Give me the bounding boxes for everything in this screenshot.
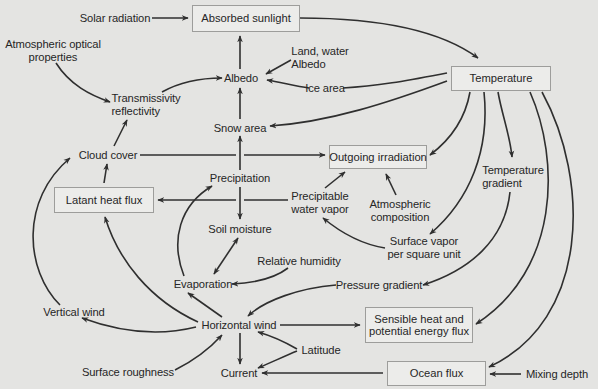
node-atmospheric-optical-properties: Atmospheric optical properties — [5, 38, 101, 63]
node-evaporation: Evaporation — [174, 278, 233, 291]
arrow-hwind-to-evap — [188, 293, 222, 317]
node-precipitable-water-vapor: Precipitable water vapor — [291, 190, 348, 215]
arrow-temperature-to-surfacevapor — [430, 92, 485, 234]
arrow-transmissivity-to-albedo — [162, 78, 222, 92]
evaporation-label: Evaporation — [174, 278, 233, 291]
node-surface-roughness: Surface roughness — [82, 366, 174, 379]
soil-moisture-label: Soil moisture — [208, 223, 271, 236]
node-relative-humidity: Relative humidity — [257, 255, 341, 268]
node-current: Current — [221, 367, 258, 380]
horizontal-wind-label: Horizontal wind — [202, 319, 277, 332]
arrow-latent-to-cloud — [104, 164, 107, 183]
arrow-optical-to-transmissivity — [56, 63, 110, 102]
latitude-label: Latitude — [301, 344, 340, 357]
node-mixing-depth: Mixing depth — [526, 368, 588, 381]
arrow-hwind-to-vwind — [82, 318, 196, 332]
node-snow-area: Snow area — [214, 122, 267, 135]
temperature-gradient-line1: Temperature — [482, 164, 544, 177]
node-surface-vapor: Surface vapor per square unit — [387, 235, 460, 260]
current-label: Current — [221, 367, 258, 380]
surface-vapor-line1: Surface vapor — [387, 235, 460, 248]
node-outgoing-irradiation: Outgoing irradiation — [329, 145, 427, 169]
node-cloud-cover: Cloud cover — [79, 149, 138, 162]
arrow-composition-to-outgoing — [386, 174, 396, 195]
node-solar-radiation: Solar radiation — [80, 12, 151, 25]
node-soil-moisture: Soil moisture — [208, 223, 271, 236]
ice-area-label: Ice area — [305, 82, 345, 95]
atmospheric-composition-line1: Atmospheric — [369, 198, 430, 211]
transmissivity-line2: reflectivity — [111, 104, 180, 117]
arrow-landwater-to-albedo — [266, 60, 291, 74]
arrow-temperature-to-ocean — [489, 92, 573, 367]
land-water-line1: Land, water — [291, 45, 348, 58]
node-sensible-heat-flux: Sensible heat and potential energy flux — [365, 307, 473, 343]
albedo-label: Albedo — [224, 72, 258, 85]
arrow-soil-evap-bidirectional — [214, 238, 238, 274]
arrow-pressure-to-hwind — [248, 285, 336, 316]
arrow-surfacevapor-to-pwv — [323, 218, 385, 248]
node-horizontal-wind: Horizontal wind — [202, 319, 277, 332]
node-land-water-albedo: Land, water Albedo — [291, 45, 348, 70]
precipitation-label: Precipitation — [210, 172, 270, 185]
node-latitude: Latitude — [301, 344, 340, 357]
vertical-wind-label: Vertical wind — [43, 306, 105, 319]
node-ice-area: Ice area — [305, 82, 345, 95]
surface-vapor-line2: per square unit — [387, 247, 460, 260]
outgoing-irradiation-label: Outgoing irradiation — [329, 151, 427, 164]
precipitable-line2: water vapor — [291, 202, 348, 215]
atmospheric-optical-line2: properties — [5, 50, 101, 63]
solar-radiation-label: Solar radiation — [80, 12, 151, 25]
temperature-gradient-line2: gradient — [482, 176, 544, 189]
arrow-humidity-to-evap — [232, 268, 288, 284]
sensible-heat-label-line2: potential energy flux — [369, 325, 469, 338]
latant-heat-flux-label: Latant heat flux — [66, 194, 143, 207]
node-precipitation: Precipitation — [210, 172, 270, 185]
pressure-gradient-label: Pressure gradient — [336, 279, 423, 292]
arrow-roughness-to-hwind — [175, 335, 222, 370]
arrow-latitude-to-current — [258, 351, 297, 368]
arrow-hwind-to-latent — [105, 217, 198, 322]
cloud-cover-label: Cloud cover — [79, 149, 138, 162]
node-temperature-gradient: Temperature gradient — [482, 164, 544, 189]
node-atmospheric-composition: Atmospheric composition — [369, 198, 430, 223]
arrow-vwind-to-cloud — [33, 158, 70, 305]
arrow-temperature-to-snow — [270, 81, 447, 126]
climate-feedback-diagram: Absorbed sunlight Temperature Outgoing i… — [0, 0, 598, 389]
relative-humidity-label: Relative humidity — [257, 255, 341, 268]
ocean-flux-label: Ocean flux — [410, 367, 463, 380]
sensible-heat-label-line1: Sensible heat and — [374, 313, 464, 326]
arrow-cloud-to-transmissivity — [114, 120, 127, 146]
node-absorbed-sunlight: Absorbed sunlight — [192, 5, 300, 32]
node-temperature: Temperature — [451, 66, 551, 91]
arrow-temperature-to-outgoing — [430, 92, 470, 155]
atmospheric-composition-line2: composition — [369, 210, 430, 223]
surface-roughness-label: Surface roughness — [82, 366, 174, 379]
arrow-temperature-to-gradient — [498, 92, 512, 157]
line-temperature-to-ice — [343, 73, 447, 88]
snow-area-label: Snow area — [214, 122, 267, 135]
arrow-temperature-to-sensible — [476, 92, 548, 324]
node-vertical-wind: Vertical wind — [43, 306, 105, 319]
arrow-ice-to-albedo — [267, 80, 309, 88]
node-transmissivity-reflectivity: Transmissivity reflectivity — [111, 92, 180, 117]
node-latant-heat-flux: Latant heat flux — [54, 187, 154, 213]
transmissivity-line1: Transmissivity — [111, 92, 180, 105]
temperature-label: Temperature — [470, 72, 533, 85]
arrow-latitude-to-hwind — [258, 332, 297, 349]
absorbed-sunlight-label: Absorbed sunlight — [201, 12, 291, 25]
arrow-pwv-to-outgoing — [325, 172, 345, 188]
node-pressure-gradient: Pressure gradient — [336, 279, 423, 292]
mixing-depth-label: Mixing depth — [526, 368, 588, 381]
precipitable-line1: Precipitable — [291, 190, 348, 203]
node-albedo: Albedo — [224, 72, 258, 85]
land-water-line2: Albedo — [291, 57, 348, 70]
node-ocean-flux: Ocean flux — [387, 361, 486, 386]
atmospheric-optical-line1: Atmospheric optical — [5, 38, 101, 51]
